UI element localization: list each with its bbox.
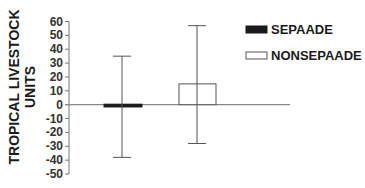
- legend-swatch: [246, 26, 267, 33]
- bar-nonsepaade: [179, 26, 216, 144]
- bar-rect: [104, 104, 142, 107]
- y-tick-label: -10: [46, 112, 64, 126]
- y-tick-label: -30: [46, 139, 64, 153]
- legend-label: SEPAADE: [271, 22, 333, 37]
- y-tick-label: 10: [50, 84, 64, 98]
- y-axis-label: TROPICAL LIVESTOCKUNITS: [6, 9, 38, 164]
- y-tick-label: -40: [46, 153, 64, 167]
- y-tick-label: -20: [46, 125, 64, 139]
- bar-sepaade: [104, 56, 142, 157]
- y-tick-label: 60: [50, 15, 64, 29]
- y-tick-label: 50: [50, 28, 64, 42]
- y-axis-label-line: UNITS: [22, 66, 38, 108]
- y-tick-label: 20: [50, 70, 64, 84]
- legend: SEPAADENONSEPAADE: [246, 22, 362, 63]
- legend-item-sepaade: SEPAADE: [246, 22, 333, 37]
- legend-swatch: [246, 52, 267, 59]
- y-tick-label: 30: [50, 56, 64, 70]
- legend-item-nonsepaade: NONSEPAADE: [246, 48, 362, 63]
- y-axis-label-line: TROPICAL LIVESTOCK: [6, 9, 22, 164]
- y-axis: 6050403020100-10-20-30-40-50: [46, 15, 290, 182]
- legend-label: NONSEPAADE: [271, 48, 362, 63]
- bars: [104, 26, 216, 158]
- y-tick-label: 0: [56, 98, 63, 112]
- y-tick-label: 40: [50, 42, 64, 56]
- bar-chart: TROPICAL LIVESTOCKUNITS 6050403020100-10…: [0, 0, 365, 188]
- y-tick-label: -50: [46, 167, 64, 181]
